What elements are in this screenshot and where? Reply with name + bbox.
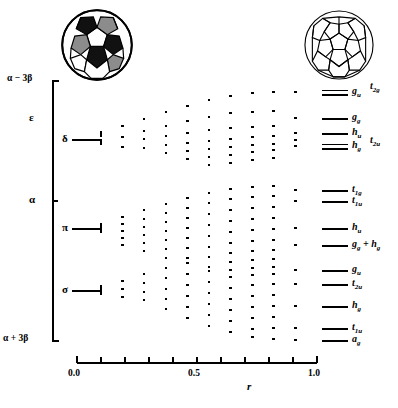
level-marker <box>186 227 189 230</box>
level-marker <box>251 259 254 262</box>
level-marker <box>165 212 168 215</box>
level-marker <box>229 261 232 264</box>
level-marker <box>272 266 275 269</box>
level-marker <box>208 270 211 273</box>
level-marker <box>143 130 146 133</box>
level-marker <box>208 256 211 259</box>
term-symbol-label: hu <box>352 126 361 140</box>
term-symbol-label: hg <box>352 139 361 153</box>
degenerate-level-line <box>72 290 100 292</box>
energy-axis-bottom-cap <box>52 340 59 342</box>
level-marker <box>208 192 211 195</box>
level-marker <box>208 224 211 227</box>
level-marker <box>294 339 297 342</box>
level-marker <box>272 338 275 341</box>
level-marker <box>272 185 275 188</box>
level-marker <box>208 99 211 102</box>
level-marker <box>186 257 189 260</box>
level-marker <box>251 267 254 270</box>
final-level-line <box>322 148 348 150</box>
level-marker <box>272 283 275 286</box>
level-marker <box>229 198 232 201</box>
level-marker <box>186 284 189 287</box>
level-marker <box>229 276 232 279</box>
level-marker <box>121 125 124 128</box>
level-marker <box>251 218 254 221</box>
term-symbol-label: gg <box>352 111 361 125</box>
level-marker <box>165 203 168 206</box>
level-marker <box>229 252 232 255</box>
r-axis-tick <box>76 356 77 363</box>
level-marker <box>121 146 124 149</box>
shell-label-pi: π <box>62 221 68 233</box>
level-marker <box>251 284 254 287</box>
level-marker <box>165 230 168 233</box>
level-marker <box>294 145 297 148</box>
level-marker <box>165 257 168 260</box>
r-tick-label-1: 0.5 <box>188 368 200 378</box>
level-marker <box>186 237 189 240</box>
term-symbol-label: gg + hg <box>352 238 380 252</box>
level-marker <box>272 228 275 231</box>
level-marker <box>121 244 124 247</box>
level-marker <box>208 129 211 132</box>
level-marker <box>165 288 168 291</box>
r-axis-tick <box>244 357 245 363</box>
level-marker <box>229 188 232 191</box>
final-level-line <box>322 90 348 92</box>
level-marker <box>186 262 189 265</box>
soccer-ball-icon <box>60 8 134 82</box>
degenerate-level-line <box>72 228 100 230</box>
level-marker <box>208 292 211 295</box>
level-marker <box>272 316 275 319</box>
level-marker <box>294 139 297 142</box>
level-marker <box>208 281 211 284</box>
level-marker <box>165 277 168 280</box>
level-marker <box>100 131 103 137</box>
level-marker <box>272 239 275 242</box>
level-marker <box>251 196 254 199</box>
level-marker <box>272 217 275 220</box>
level-marker <box>294 244 297 247</box>
level-marker <box>251 229 254 232</box>
level-marker <box>143 250 146 253</box>
level-marker <box>143 147 146 150</box>
r-axis-tick <box>172 357 173 363</box>
level-marker <box>165 135 168 138</box>
level-marker <box>251 207 254 210</box>
level-marker <box>165 267 168 270</box>
level-marker <box>186 150 189 153</box>
level-marker <box>229 138 232 141</box>
term-symbol-label: hu <box>352 221 361 235</box>
level-marker <box>143 234 146 237</box>
shell-label-delta: δ <box>62 132 68 144</box>
level-marker <box>229 298 232 301</box>
level-marker <box>229 242 232 245</box>
level-marker <box>143 299 146 302</box>
energy-axis-mid-label: α <box>29 193 35 205</box>
level-marker <box>251 92 254 95</box>
r-axis-tick <box>124 357 125 363</box>
final-level-line <box>322 190 348 192</box>
r-axis-label: r <box>247 380 251 392</box>
level-marker <box>229 309 232 312</box>
level-marker <box>229 331 232 334</box>
level-marker <box>229 320 232 323</box>
r-axis-tick <box>100 357 101 363</box>
level-marker <box>272 327 275 330</box>
r-axis-tick <box>220 357 221 363</box>
level-marker <box>121 288 124 291</box>
level-marker <box>186 317 189 320</box>
level-marker <box>100 227 103 233</box>
level-marker <box>294 327 297 330</box>
level-marker <box>208 202 211 205</box>
level-marker <box>294 269 297 272</box>
level-marker <box>251 250 254 253</box>
level-marker <box>165 144 168 147</box>
level-marker <box>100 139 103 145</box>
level-marker <box>294 117 297 120</box>
level-marker <box>208 266 211 269</box>
final-level-line <box>322 270 348 272</box>
level-marker <box>229 162 232 165</box>
level-marker <box>186 142 189 145</box>
